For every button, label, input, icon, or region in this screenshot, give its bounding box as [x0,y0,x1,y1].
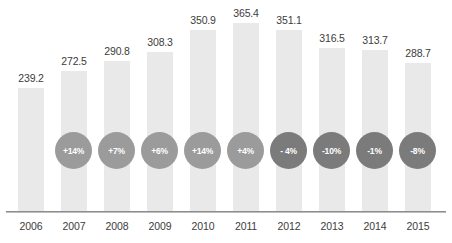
change-badge-2012[interactable]: - 4% [270,132,307,169]
x-axis-label-2014: 2014 [353,220,397,232]
bar[interactable] [18,88,44,212]
change-badge-2009[interactable]: +6% [141,132,178,169]
change-badge-2007[interactable]: +14% [55,132,92,169]
bar[interactable] [276,30,302,212]
bar[interactable] [362,50,388,212]
x-axis-label-2009: 2009 [138,220,182,232]
bar-value-label: 290.8 [95,45,139,57]
bar-value-label: 308.3 [138,36,182,48]
x-axis-label-2011: 2011 [224,220,268,232]
x-axis-label-2010: 2010 [181,220,225,232]
bar[interactable] [233,23,259,212]
x-axis-label-2006: 2006 [9,220,53,232]
x-axis-label-2015: 2015 [396,220,440,232]
bar-chart: 239.2 272.5 290.8 308.3 350.9 365.4 351.… [0,0,452,243]
change-badge-2011[interactable]: +4% [227,132,264,169]
x-axis-label-2013: 2013 [310,220,354,232]
bar-value-label: 365.4 [224,7,268,19]
bar-value-label: 313.7 [353,34,397,46]
bar-value-label: 351.1 [267,14,311,26]
plot-area: 239.2 272.5 290.8 308.3 350.9 365.4 351.… [0,0,452,243]
bar-value-label: 288.7 [396,47,440,59]
bar[interactable] [190,30,216,212]
bar-value-label: 350.9 [181,14,225,26]
bar-value-label: 272.5 [52,55,96,67]
change-badge-2014[interactable]: -1% [356,132,393,169]
bar-value-label: 239.2 [9,72,53,84]
change-badge-2010[interactable]: +14% [184,132,221,169]
axis-baseline [6,211,446,212]
bar-value-label: 316.5 [310,32,354,44]
change-badge-2015[interactable]: -8% [399,132,436,169]
change-badge-2008[interactable]: +7% [98,132,135,169]
x-axis-label-2008: 2008 [95,220,139,232]
x-axis-label-2012: 2012 [267,220,311,232]
bar[interactable] [319,48,345,212]
x-axis-label-2007: 2007 [52,220,96,232]
change-badge-2013[interactable]: -10% [313,132,350,169]
